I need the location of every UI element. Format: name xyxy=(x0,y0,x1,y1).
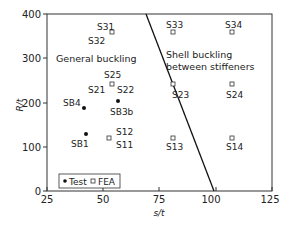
test-marker-sb1 xyxy=(84,132,88,136)
label-s33: S33 xyxy=(166,20,183,30)
label-s21: S21 xyxy=(88,85,105,95)
fea-marker-s23 xyxy=(171,82,175,86)
chart: 400 300 200 100 0 R/t 25 50 75 100 125 s… xyxy=(0,0,290,226)
legend: Test FEA xyxy=(59,174,120,188)
region-label-general: General buckling xyxy=(56,53,137,64)
label-s13: S13 xyxy=(166,142,183,152)
region-label-shell-2: between stiffeners xyxy=(166,61,255,72)
x-tick-100: 100 xyxy=(201,194,220,205)
legend-fea-marker xyxy=(91,179,95,183)
test-series xyxy=(82,99,120,136)
x-tick-125: 125 xyxy=(260,194,279,205)
y-tick-100: 100 xyxy=(22,142,41,153)
label-s23: S23 xyxy=(172,90,189,100)
x-tick-50: 50 xyxy=(97,194,110,205)
label-sb4: SB4 xyxy=(63,98,81,108)
label-sb3b: SB3b xyxy=(110,107,134,117)
x-axis-label: s/t xyxy=(153,208,165,218)
label-s24: S24 xyxy=(226,90,243,100)
fea-marker-s14 xyxy=(230,136,234,140)
x-tick-25: 25 xyxy=(41,194,54,205)
fea-marker-s33 xyxy=(171,30,175,34)
plot-frame xyxy=(47,14,272,191)
fea-marker-s25 xyxy=(110,82,114,86)
label-s31: S31 xyxy=(97,22,114,32)
boundary-line xyxy=(146,14,214,191)
y-tick-300: 300 xyxy=(22,53,41,64)
fea-marker-s34 xyxy=(230,30,234,34)
legend-test-label: Test xyxy=(68,177,87,187)
y-tick-400: 400 xyxy=(22,9,41,20)
fea-marker-s24 xyxy=(230,82,234,86)
legend-fea-label: FEA xyxy=(98,177,116,187)
x-axis: 25 50 75 100 125 s/t xyxy=(41,187,280,218)
region-label-shell-1: Shell buckling xyxy=(166,49,232,60)
test-marker-sb4 xyxy=(82,106,86,110)
y-axis: 400 300 200 100 0 R/t xyxy=(15,9,47,197)
label-s25: S25 xyxy=(104,70,121,80)
label-s32: S32 xyxy=(88,36,105,46)
label-s34: S34 xyxy=(225,20,242,30)
y-axis-label: R/t xyxy=(15,98,25,111)
x-tick-75: 75 xyxy=(153,194,166,205)
legend-test-marker xyxy=(63,179,67,183)
label-s14: S14 xyxy=(226,142,243,152)
fea-marker-s11 xyxy=(107,136,111,140)
label-s12: S12 xyxy=(116,127,133,137)
label-s22: S22 xyxy=(117,85,134,95)
fea-marker-s13 xyxy=(171,136,175,140)
point-labels: S31 S32 S33 S34 S25 S21 S22 S23 S24 SB4 … xyxy=(63,20,243,152)
test-marker-sb3b xyxy=(116,99,120,103)
label-s11: S11 xyxy=(116,140,133,150)
label-sb1: SB1 xyxy=(71,139,89,149)
